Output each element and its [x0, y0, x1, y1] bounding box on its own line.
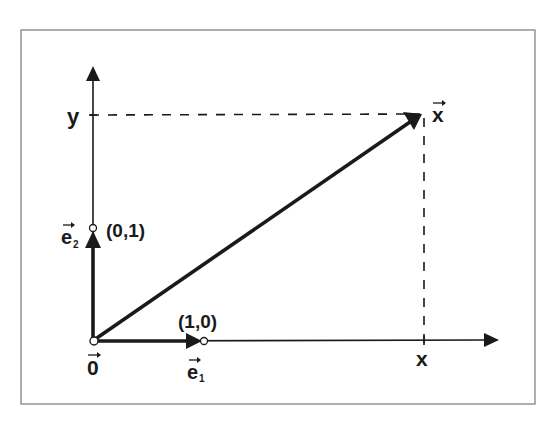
point-1-0-label: (1,0) [178, 311, 217, 332]
svg-text:e: e [61, 226, 72, 248]
dashed-projection-y [90, 114, 420, 115]
basis-vector-e2 [85, 231, 101, 340]
x-axis-label: x [416, 347, 428, 370]
origin-point [90, 337, 98, 345]
y-axis-arrowhead-icon [86, 66, 100, 81]
e2-arrowhead-icon [85, 231, 101, 248]
vector-diagram: y x x (0,1) (1,0) 0 e 1 e 2 [0, 0, 552, 425]
e1-label: e 1 [187, 357, 205, 384]
svg-text:1: 1 [199, 373, 205, 384]
svg-text:x: x [432, 103, 444, 126]
svg-text:0: 0 [87, 356, 99, 379]
svg-text:2: 2 [73, 239, 79, 250]
vector-x-label: x [432, 100, 446, 126]
svg-text:e: e [187, 361, 198, 383]
y-axis-label: y [67, 104, 80, 129]
x-axis-arrowhead-icon [484, 333, 499, 347]
point-0-1 [90, 225, 97, 232]
e1-arrowhead-icon [186, 333, 202, 349]
basis-vector-e1 [94, 333, 202, 349]
point-1-0 [201, 338, 208, 345]
origin-label: 0 [87, 352, 101, 379]
e2-label: e 2 [61, 222, 79, 250]
point-0-1-label: (0,1) [106, 220, 145, 241]
vector-x-arrowhead-icon [403, 112, 422, 130]
diagram-frame [21, 30, 535, 404]
